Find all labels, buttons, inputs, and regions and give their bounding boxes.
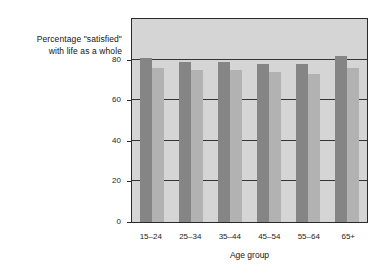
y-axis-tick-label: 60 (112, 95, 125, 104)
y-axis-title: Percentage "satisfied" with life as a wh… (4, 33, 122, 57)
x-axis-tick-label: 25–34 (174, 232, 206, 244)
bar-group (257, 19, 281, 222)
x-axis-title: Age group (131, 250, 368, 260)
bar (257, 64, 269, 222)
x-axis-tick-label: 65+ (332, 232, 364, 244)
bar (179, 62, 191, 222)
y-axis-tick-mark (127, 141, 131, 142)
y-axis-title-line-1: Percentage "satisfied" (4, 33, 122, 45)
x-axis-tick-label: 55–64 (293, 232, 325, 244)
y-axis-title-line-2: with life as a whole (4, 45, 122, 57)
bar (269, 72, 281, 222)
y-axis-tick-mark (127, 100, 131, 101)
bar-group (179, 19, 203, 222)
bar-group (140, 19, 164, 222)
y-axis-tick-label: 80 (112, 55, 125, 64)
bar-chart: Percentage "satisfied" with life as a wh… (0, 0, 378, 275)
bar (230, 70, 242, 222)
bar (308, 74, 320, 222)
y-axis-tick-mark (127, 60, 131, 61)
bar-group (218, 19, 242, 222)
bar-group (335, 19, 359, 222)
x-axis-tick-label: 45–54 (253, 232, 285, 244)
bar (218, 62, 230, 222)
y-axis-tick-label: 20 (112, 176, 125, 185)
x-axis-tick-label: 35–44 (214, 232, 246, 244)
y-axis-tick-mark (127, 181, 131, 182)
bar (191, 70, 203, 222)
bar-group (296, 19, 320, 222)
bar (347, 68, 359, 222)
x-axis-tick-labels: 15–2425–3435–4445–5455–6465+ (131, 232, 368, 244)
bar (152, 68, 164, 222)
bar (296, 64, 308, 222)
plot-inner (132, 19, 367, 222)
bar-groups (132, 19, 367, 222)
bar (335, 56, 347, 222)
y-axis-tick-mark (127, 222, 131, 223)
x-axis-tick-label: 15–24 (135, 232, 167, 244)
y-axis-tick-label: 0 (117, 217, 125, 226)
y-axis-tick-label: 40 (112, 136, 125, 145)
plot-area (131, 18, 368, 223)
bar (140, 58, 152, 222)
